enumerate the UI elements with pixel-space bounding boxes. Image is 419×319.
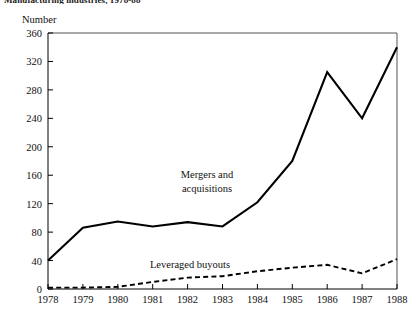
series-line-mergers-and-acquisitions [48, 47, 397, 260]
y-axis-tick-labels: 04080120160200240280320360 [26, 28, 42, 295]
y-tick-label: 240 [26, 113, 42, 124]
x-tick-label: 1987 [352, 294, 373, 305]
x-tick-label: 1980 [107, 294, 128, 305]
y-tick-label: 200 [26, 142, 42, 153]
plot-area: 04080120160200240280320360 1978197919801… [0, 0, 419, 319]
series-label-leveraged-buyouts: Leveraged buyouts [150, 259, 230, 270]
x-tick-label: 1978 [38, 294, 59, 305]
y-tick-label: 280 [26, 85, 42, 96]
x-tick-label: 1983 [212, 294, 233, 305]
x-tick-label: 1984 [247, 294, 269, 305]
y-tick-label: 320 [26, 56, 42, 67]
x-tick-label: 1988 [387, 294, 408, 305]
y-tick-label: 160 [26, 170, 42, 181]
x-tick-label: 1986 [317, 294, 338, 305]
chart-figure: Manufacturing industries, 1978-88 Number… [0, 0, 419, 319]
x-tick-label: 1979 [72, 294, 93, 305]
series-label-mergers-line1: Mergers and [181, 169, 234, 180]
y-tick-label: 120 [26, 199, 42, 210]
y-axis-ticks [48, 33, 53, 289]
y-tick-label: 40 [32, 256, 43, 267]
y-tick-label: 360 [26, 28, 42, 39]
x-tick-label: 1985 [282, 294, 303, 305]
plot-frame-top-right [48, 33, 397, 289]
x-tick-label: 1981 [142, 294, 163, 305]
x-axis-tick-labels: 1978197919801981198219831984198519861987… [38, 294, 408, 305]
y-tick-label: 80 [32, 227, 43, 238]
series-label-mergers-line2: acquisitions [182, 183, 232, 194]
x-tick-label: 1982 [177, 294, 198, 305]
